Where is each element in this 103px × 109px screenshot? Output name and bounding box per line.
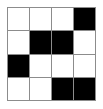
grid-cell-r1-c4[interactable]	[74, 8, 95, 30]
pattern-grid[interactable]	[7, 7, 96, 101]
grid-cell-r4-c1[interactable]	[8, 78, 29, 100]
grid-cell-r2-c2[interactable]	[30, 31, 51, 53]
grid-cell-r4-c3[interactable]	[52, 78, 73, 100]
grid-cell-r1-c3[interactable]	[52, 8, 73, 30]
grid-cell-r4-c2[interactable]	[30, 78, 51, 100]
grid-cell-r3-c2[interactable]	[30, 55, 51, 77]
grid-cell-r3-c4[interactable]	[74, 55, 95, 77]
grid-cell-r2-c4[interactable]	[74, 31, 95, 53]
grid-cell-r3-c3[interactable]	[52, 55, 73, 77]
grid-cell-r4-c4[interactable]	[74, 78, 95, 100]
grid-cell-r3-c1[interactable]	[8, 55, 29, 77]
grid-cell-r2-c1[interactable]	[8, 31, 29, 53]
grid-cell-r1-c2[interactable]	[30, 8, 51, 30]
grid-container	[7, 7, 96, 101]
screenshot-root	[0, 0, 103, 109]
grid-cell-r2-c3[interactable]	[52, 31, 73, 53]
grid-cell-r1-c1[interactable]	[8, 8, 29, 30]
